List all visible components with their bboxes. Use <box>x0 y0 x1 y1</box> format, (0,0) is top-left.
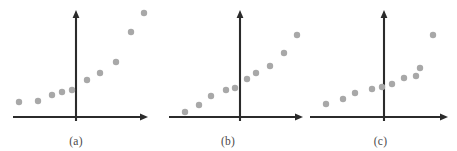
data-point <box>413 73 419 79</box>
data-point <box>59 89 65 95</box>
data-point <box>49 92 55 98</box>
data-point <box>128 29 134 35</box>
data-point <box>141 10 147 16</box>
data-point <box>389 81 395 87</box>
scatter-plot-figure: (a) (b) (c) <box>0 0 457 151</box>
data-point <box>352 90 358 96</box>
data-point <box>182 109 188 115</box>
scatter-plot-a <box>0 0 152 151</box>
x-axis-arrowhead-icon <box>140 114 148 121</box>
data-point <box>16 99 22 105</box>
data-point <box>113 59 119 65</box>
data-point <box>253 70 259 76</box>
data-point <box>340 96 346 102</box>
data-point <box>84 77 90 83</box>
data-point <box>417 65 423 71</box>
panel-caption-c: (c) <box>304 136 457 148</box>
data-point <box>244 76 250 82</box>
panel-caption-a: (a) <box>0 136 152 148</box>
scatter-plot-b <box>152 0 304 151</box>
data-point <box>369 86 375 92</box>
y-axis-arrowhead-icon <box>381 10 388 18</box>
data-point <box>430 32 436 38</box>
data-point <box>69 87 75 93</box>
scatter-plot-c <box>304 0 457 151</box>
data-point <box>196 102 202 108</box>
data-point <box>379 84 385 90</box>
data-point <box>281 50 287 56</box>
data-point <box>323 101 329 107</box>
data-point <box>35 98 41 104</box>
data-point <box>232 85 238 91</box>
data-point <box>267 63 273 69</box>
y-axis-arrowhead-icon <box>237 10 244 18</box>
scatter-panel-b: (b) <box>152 0 304 151</box>
panel-caption-b: (b) <box>152 136 304 148</box>
data-point <box>97 70 103 76</box>
data-point <box>294 32 300 38</box>
data-point <box>401 75 407 81</box>
x-axis-arrowhead-icon <box>440 114 448 121</box>
x-axis-arrowhead-icon <box>295 114 303 121</box>
y-axis-arrowhead-icon <box>73 10 80 18</box>
scatter-panel-a: (a) <box>0 0 152 151</box>
scatter-panel-c: (c) <box>304 0 457 151</box>
data-point <box>223 87 229 93</box>
data-point <box>208 93 214 99</box>
